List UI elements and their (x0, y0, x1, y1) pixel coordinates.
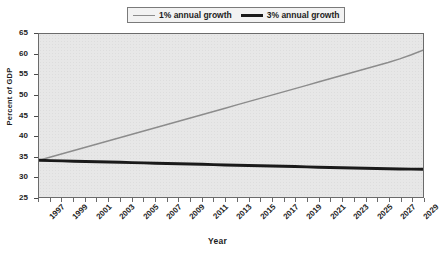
x-axis-tick-mark (190, 198, 191, 202)
legend-line-swatch-icon (241, 14, 263, 17)
x-axis-tick-mark (50, 198, 51, 202)
y-axis-tick-label: 35 (19, 153, 28, 161)
x-axis-tick-mark (202, 198, 203, 202)
x-axis-tick-mark (424, 198, 425, 202)
x-axis-tick-mark (295, 198, 296, 202)
legend-entry-1-percent: 1% annual growth (133, 11, 232, 20)
y-axis-tick-label: 60 (19, 50, 28, 58)
x-axis-tick-label: 2011 (212, 203, 230, 221)
y-axis-tick-label: 65 (19, 29, 28, 37)
x-axis-tick-label: 2029 (423, 203, 441, 221)
x-axis-tick-mark (143, 198, 144, 202)
x-axis-tick-label: 2003 (118, 203, 136, 221)
x-axis-tick-mark (85, 198, 86, 202)
x-axis-tick-label: 1997 (48, 203, 66, 221)
x-axis-tick-label: 2021 (329, 203, 347, 221)
chart-legend: 1% annual growth 3% annual growth (127, 7, 345, 23)
line-series-1-percent (39, 50, 423, 160)
x-axis-tick-mark (167, 198, 168, 202)
x-axis-tick-mark (108, 198, 109, 202)
x-axis-tick-mark (38, 198, 39, 202)
legend-entry-3-percent: 3% annual growth (241, 11, 340, 20)
x-axis-tick-label: 2025 (376, 203, 394, 221)
x-axis-title: Year (0, 236, 435, 246)
x-axis-tick-mark (319, 198, 320, 202)
x-axis-tick-mark (284, 198, 285, 202)
x-axis-tick-label: 1999 (72, 203, 90, 221)
legend-line-swatch-icon (133, 15, 155, 16)
legend-label-3-percent: 3% annual growth (267, 11, 340, 20)
x-axis-tick-label: 2001 (95, 203, 113, 221)
y-axis-tick-label: 55 (19, 70, 28, 78)
x-axis-tick-label: 2013 (235, 203, 253, 221)
x-axis-tick-mark (389, 198, 390, 202)
x-axis-tick-mark (178, 198, 179, 202)
x-axis-tick-mark (120, 198, 121, 202)
x-axis-tick-mark (307, 198, 308, 202)
x-axis-tick-label: 2007 (165, 203, 183, 221)
legend-label-1-percent: 1% annual growth (159, 11, 232, 20)
line-series-3-percent (39, 160, 423, 169)
x-axis-tick-label: 2023 (352, 203, 370, 221)
x-axis-tick-mark (225, 198, 226, 202)
y-axis-tick-labels: 253035404550556065 (0, 33, 33, 198)
x-axis-tick-mark (61, 198, 62, 202)
x-axis-tick-label: 2017 (282, 203, 300, 221)
x-axis-tick-mark (213, 198, 214, 202)
x-axis-tick-mark (401, 198, 402, 202)
y-axis-tick-label: 40 (19, 132, 28, 140)
x-axis-tick-mark (96, 198, 97, 202)
y-axis-tick-label: 50 (19, 91, 28, 99)
x-axis-tick-mark (73, 198, 74, 202)
x-axis-tick-label: 2015 (259, 203, 277, 221)
y-axis-tick-label: 45 (19, 112, 28, 120)
y-axis-tick-label: 30 (19, 173, 28, 181)
x-axis-tick-label: 2019 (306, 203, 324, 221)
x-axis-tick-label: 2027 (399, 203, 417, 221)
plot-lines (39, 34, 423, 197)
y-axis-tick-label: 25 (19, 194, 28, 202)
x-axis-tick-mark (272, 198, 273, 202)
x-axis-tick-mark (412, 198, 413, 202)
x-axis-tick-mark (155, 198, 156, 202)
plot-area (38, 33, 424, 198)
x-axis-tick-mark (377, 198, 378, 202)
x-axis-tick-label: 2005 (142, 203, 160, 221)
x-axis-tick-mark (237, 198, 238, 202)
x-axis-tick-mark (366, 198, 367, 202)
x-axis-tick-mark (249, 198, 250, 202)
x-axis-tick-mark (354, 198, 355, 202)
x-axis-tick-mark (260, 198, 261, 202)
x-axis-tick-mark (342, 198, 343, 202)
x-axis-tick-label: 2009 (189, 203, 207, 221)
x-axis-tick-mark (330, 198, 331, 202)
x-axis-tick-mark (132, 198, 133, 202)
